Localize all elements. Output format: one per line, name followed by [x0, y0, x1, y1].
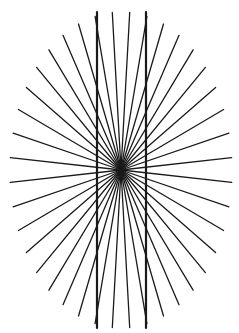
radiating-line	[49, 50, 121, 170]
radiating-line	[26, 87, 121, 170]
illusion-canvas	[0, 0, 239, 333]
radiating-line	[121, 170, 193, 290]
radiating-line	[121, 67, 205, 170]
radiating-lines	[10, 13, 231, 328]
radiating-line	[121, 87, 216, 170]
radiating-line	[121, 50, 193, 170]
radiating-line	[49, 170, 121, 290]
radiating-line	[121, 35, 179, 170]
radiating-line	[37, 170, 121, 273]
radiating-line	[37, 67, 121, 170]
radiating-line	[63, 170, 121, 305]
radiating-line	[121, 170, 205, 273]
radiating-line	[63, 35, 121, 170]
radiating-line	[121, 170, 216, 253]
radiating-line	[121, 170, 179, 305]
hering-illusion-figure	[0, 0, 239, 333]
radiating-line	[26, 170, 121, 253]
